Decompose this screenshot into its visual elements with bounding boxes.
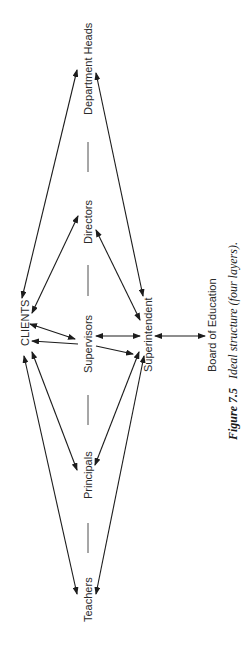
node-clients: CLIENTS bbox=[19, 300, 31, 346]
node-principals: Principals bbox=[82, 451, 94, 499]
edge-clients-directors bbox=[32, 216, 78, 313]
edge-clients-principals bbox=[32, 352, 77, 470]
node-teachers: Teachers bbox=[82, 577, 94, 622]
edge-superintendent-deptheads bbox=[96, 73, 143, 296]
edge-clients-depthheads bbox=[22, 70, 77, 298]
edge-superintendent-teachers bbox=[96, 356, 144, 594]
edge-superintendent-principals bbox=[95, 352, 139, 465]
edge-clients-teachers bbox=[24, 356, 77, 594]
node-directors: Directors bbox=[82, 199, 94, 244]
edges bbox=[22, 70, 205, 594]
org-structure-diagram: Department Heads Directors Supervisors P… bbox=[0, 0, 245, 651]
figure-caption: Figure 7.5 Ideal structure (four layers)… bbox=[223, 242, 240, 441]
node-department-heads: Department Heads bbox=[82, 22, 94, 115]
node-labels: Department Heads Directors Supervisors P… bbox=[19, 22, 218, 622]
node-superintendent: Superintendent bbox=[142, 297, 154, 372]
edge-supervisors-clients-1 bbox=[30, 324, 75, 339]
edge-supervisors-clients-2 bbox=[32, 341, 78, 344]
figure-title: Ideal structure (four layers). bbox=[226, 242, 240, 380]
edge-supervisors-superintendent-2 bbox=[96, 346, 133, 354]
node-board-of-education: Board of Education bbox=[206, 278, 218, 372]
figure-caption-text: Figure 7.5 Ideal structure (four layers)… bbox=[223, 242, 240, 441]
diagram-canvas: Department Heads Directors Supervisors P… bbox=[0, 0, 245, 651]
node-supervisors: Supervisors bbox=[82, 314, 94, 373]
edge-superintendent-directors bbox=[96, 230, 140, 320]
figure-number: Figure 7.5 bbox=[226, 388, 240, 441]
